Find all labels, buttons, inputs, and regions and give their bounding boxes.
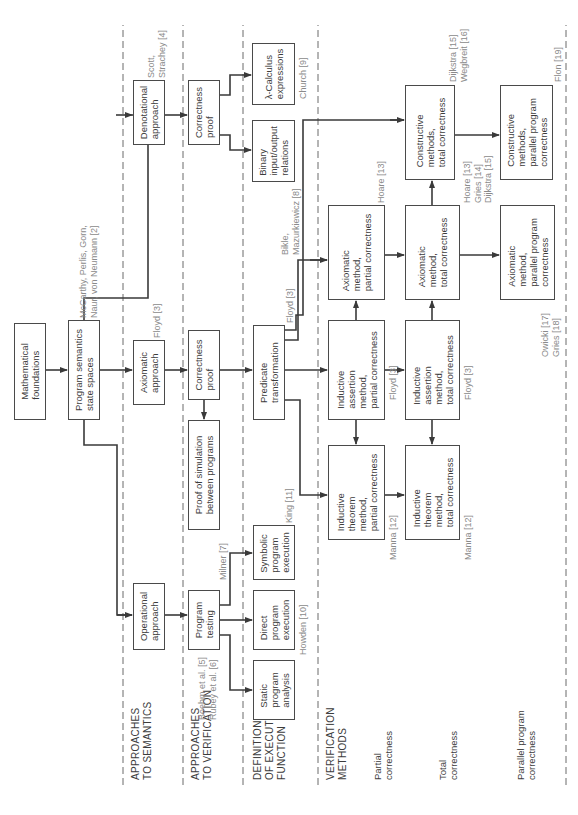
ref-bikle-mazurkiewicz: Bikle, Mazurkiewicz [8] bbox=[280, 188, 301, 255]
box-correctness-proof-axiomatic: Correctness proof bbox=[188, 330, 220, 400]
box-proof-of-simulation: Proof of simulation between programs bbox=[188, 420, 220, 530]
ref-howden: Howden [10] bbox=[298, 604, 309, 655]
box-binary-io-relations: Binary input/output relations bbox=[252, 120, 295, 182]
ref-scott-strachey: Scott, Strachey [4] bbox=[146, 30, 167, 78]
ref-floyd-axiomatic-approach: Floyd [3] bbox=[152, 303, 163, 338]
box-static-analysis: Static program analysis bbox=[253, 660, 295, 720]
row-label-partial-correctness: Partial correctness bbox=[372, 731, 394, 780]
box-inductive-assertion-partial: Inductive assertion method, partial corr… bbox=[328, 320, 385, 420]
box-axiomatic-partial: Axiomatic method, partial correctness bbox=[328, 205, 385, 300]
ref-manna-partial: Manna [12] bbox=[388, 515, 399, 560]
ref-church: Church [9] bbox=[298, 57, 309, 99]
ref-dijkstra-wegbreit: Dijkstra [15] Wegbreit [16] bbox=[448, 29, 469, 82]
row-label-total-correctness: Total correctness bbox=[437, 731, 459, 780]
ref-floyd-total: Floyd [3] bbox=[463, 365, 474, 400]
box-constructive-total: Constructive methods, total correctness bbox=[405, 85, 455, 180]
box-operational-approach: Operational approach bbox=[133, 583, 165, 650]
box-mathematical-foundations: Mathematical foundations bbox=[14, 323, 46, 420]
box-program-testing: Program testing bbox=[188, 590, 220, 650]
box-direct-execution: Direct program execution bbox=[253, 590, 295, 650]
box-lambda-calculus: λ-Calculus expressions bbox=[252, 43, 295, 105]
box-constructive-parallel: Constructive methods, parallel program c… bbox=[500, 85, 553, 180]
box-axiomatic-total: Axiomatic method, total correctness bbox=[405, 205, 460, 300]
ref-hoare-gries-dijkstra: Hoare [13] Gries [14] Dijkstra [15] bbox=[462, 155, 494, 203]
box-predicate-transformation: Predicate transformation bbox=[253, 325, 285, 420]
box-inductive-theorem-partial: Inductive theorem method, partial correc… bbox=[328, 445, 385, 540]
row-label-approaches-semantics: APPROACHES TO SEMANTICS bbox=[130, 702, 154, 780]
row-label-verification-methods: VERIFICATION METHODS bbox=[325, 707, 349, 780]
ref-flon: Flon [19] bbox=[553, 47, 564, 82]
verification-methods-diagram: APPROACHES TO SEMANTICS APPROACHES TO VE… bbox=[0, 0, 578, 815]
box-program-semantics: Program semantics state spaces bbox=[68, 320, 100, 420]
ref-hoare-partial: Hoare [13] bbox=[376, 161, 387, 203]
box-denotational-approach: Denotational approach bbox=[133, 80, 165, 145]
ref-owicki-gries: Owicki [17] Gries [18] bbox=[540, 313, 561, 357]
ref-milner: Milner [7] bbox=[218, 543, 229, 580]
box-axiomatic-parallel: Axiomatic method, parallel program corre… bbox=[500, 205, 555, 300]
box-inductive-assertion-total: Inductive assertion method, total correc… bbox=[405, 320, 460, 420]
ref-floyd-predicate: Floyd [3] bbox=[285, 288, 296, 323]
ref-floyd-partial: Floyd [3] bbox=[388, 365, 399, 400]
box-axiomatic-approach: Axiomatic approach bbox=[133, 340, 165, 405]
box-inductive-theorem-total: Inductive theorem method, total correctn… bbox=[405, 445, 460, 540]
ref-king: King [11] bbox=[284, 488, 295, 523]
ref-mccarthy: McCarthy, Perlis, Gorn, Naur, von Neuman… bbox=[78, 225, 99, 318]
row-label-parallel-correctness: Parallel program correctness bbox=[515, 710, 537, 780]
ref-boehm-rubey: Boehm et al. [5] Rubey et al. [6] bbox=[197, 657, 218, 720]
ref-manna-total: Manna [12] bbox=[463, 515, 474, 560]
box-symbolic-execution: Symbolic program execution bbox=[253, 525, 295, 580]
box-correctness-proof-denotational: Correctness proof bbox=[188, 80, 220, 145]
